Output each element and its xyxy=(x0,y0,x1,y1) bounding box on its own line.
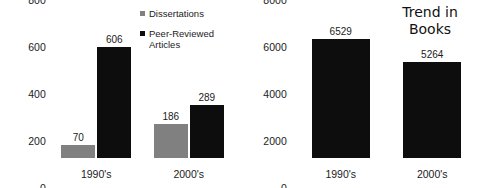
bar-group-2000s: 5264 xyxy=(390,12,474,158)
left-bar-chart: 0 200 400 600 800 70 606 xyxy=(0,0,241,188)
legend-item-peer-reviewed-articles[interactable]: Peer-Reviewed Articles xyxy=(140,28,221,50)
bar-group-1990s: 70 606 xyxy=(57,12,135,158)
bar-value-label: 186 xyxy=(162,112,179,122)
y-tick-600: 600 xyxy=(28,41,46,53)
y-tick-8000: 8000 xyxy=(263,0,287,6)
two-chart-figure: 0 200 400 600 800 70 606 xyxy=(0,0,482,188)
bar-group-1990s: 6529 xyxy=(299,12,383,158)
right-bar-chart: 0 2000 4000 6000 8000 Trend in Books 652… xyxy=(241,0,482,188)
bar-rect xyxy=(403,62,461,158)
y-tick-200: 200 xyxy=(28,135,46,147)
y-tick-6000: 6000 xyxy=(263,41,287,53)
y-tick-800: 800 xyxy=(28,0,46,6)
bar-articles-1990s[interactable]: 606 xyxy=(97,12,131,158)
left-chart-category-labels: 1990's 2000's xyxy=(50,168,235,180)
category-label-2000s: 2000's xyxy=(150,168,228,180)
y-tick-0: 0 xyxy=(40,182,46,188)
legend-label: Dissertations xyxy=(149,8,204,19)
bar-rect xyxy=(154,124,188,158)
left-chart-legend: Dissertations Peer-Reviewed Articles xyxy=(140,8,221,50)
bar-rect xyxy=(190,105,224,158)
bar-value-label: 70 xyxy=(73,133,84,143)
y-tick-0: 0 xyxy=(281,182,287,188)
y-tick-4000: 4000 xyxy=(263,88,287,100)
legend-label: Peer-Reviewed Articles xyxy=(149,28,221,50)
legend-item-dissertations[interactable]: Dissertations xyxy=(140,8,221,19)
bar-value-label: 6529 xyxy=(330,27,352,37)
left-chart-y-axis: 0 200 400 600 800 xyxy=(0,0,46,188)
bar-value-label: 289 xyxy=(198,93,215,103)
category-label-1990s: 1990's xyxy=(57,168,135,180)
square-marker-icon xyxy=(140,11,145,16)
right-chart-plot-area: 6529 5264 1990's 2000's xyxy=(295,0,478,188)
right-chart-y-axis: 0 2000 4000 6000 8000 xyxy=(241,0,287,188)
bar-value-label: 5264 xyxy=(421,50,443,60)
right-chart-bar-groups: 6529 5264 xyxy=(295,12,478,158)
bar-rect xyxy=(61,145,95,158)
bar-rect xyxy=(312,39,370,158)
category-label-1990s: 1990's xyxy=(299,168,383,180)
bar-dissertations-1990s[interactable]: 70 xyxy=(61,12,95,158)
category-label-2000s: 2000's xyxy=(390,168,474,180)
bar-value-label: 606 xyxy=(106,35,123,45)
square-marker-icon xyxy=(140,31,145,36)
bar-books-1990s[interactable]: 6529 xyxy=(312,12,370,158)
y-tick-2000: 2000 xyxy=(263,135,287,147)
y-tick-400: 400 xyxy=(28,88,46,100)
right-chart-category-labels: 1990's 2000's xyxy=(295,168,478,180)
bar-books-2000s[interactable]: 5264 xyxy=(403,12,461,158)
bar-rect xyxy=(97,47,131,158)
